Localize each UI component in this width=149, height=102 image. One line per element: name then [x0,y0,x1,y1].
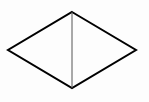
rhombus-figure [0,0,149,102]
diagram-canvas [0,0,149,102]
